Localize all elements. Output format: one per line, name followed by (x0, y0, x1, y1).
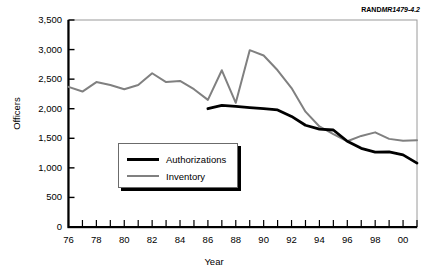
y-tick-label: 3,000 (14, 44, 62, 55)
axes-group (68, 20, 417, 228)
y-tick-label: 3,500 (14, 14, 62, 25)
legend-swatch-inventory-icon (127, 175, 159, 177)
chart-legend: Authorizations Inventory (118, 143, 238, 188)
y-tick-label: 2,500 (14, 73, 62, 84)
x-axis-title: Year (0, 256, 428, 267)
y-tick-label: 0 (14, 221, 62, 232)
legend-label-authorizations: Authorizations (166, 154, 226, 165)
legend-item-authorizations: Authorizations (127, 152, 226, 166)
figure-chart: RANDMR1479-4.2 05001,0001,5002,0002,5003… (0, 0, 428, 278)
legend-item-inventory: Inventory (127, 169, 205, 183)
y-tick-label: 1,000 (14, 162, 62, 173)
plot-area-frame (68, 20, 417, 228)
y-axis-title: Officers (11, 84, 22, 144)
legend-swatch-authorizations-icon (127, 158, 159, 161)
legend-label-inventory: Inventory (166, 171, 205, 182)
y-tick-label: 500 (14, 191, 62, 202)
x-tick-label: 00 (383, 234, 423, 245)
